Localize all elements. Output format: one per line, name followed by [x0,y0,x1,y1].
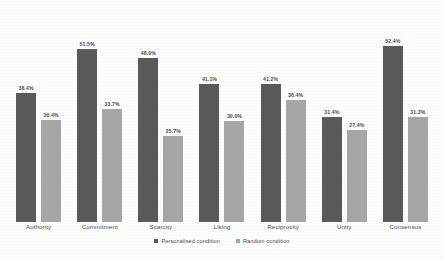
bar-scarcity-personalised [138,58,158,222]
bar-commitment-personalised [77,49,97,222]
bar-scarcity-random [163,136,183,222]
bar-slot-scarcity-personalised: 48.9% [138,10,158,222]
bar-reciprocity-personalised [261,84,281,222]
bar-authority-random [41,120,61,222]
bar-value-label: 25.7% [166,128,181,134]
bar-slot-scarcity-random: 25.7% [163,10,183,222]
bar-group-liking: 41.1% 30.0% [191,10,252,222]
legend-swatch-icon [154,239,158,243]
bar-group-unity: 31.4% 27.4% [314,10,375,222]
legend-label-personalised: Personalised condition [161,238,219,244]
bar-reciprocity-random [286,100,306,222]
legend-item-random: Random condition [236,238,290,244]
axis-label-liking: Liking [191,223,252,230]
legend-swatch-icon [236,239,240,243]
bar-value-label: 38.4% [18,85,33,91]
bar-value-label: 36.4% [288,92,303,98]
bar-consensus-random [408,117,428,222]
bar-slot-unity-personalised: 31.4% [322,10,342,222]
bar-value-label: 27.4% [349,122,364,128]
bar-group-scarcity: 48.9% 25.7% [130,10,191,222]
bar-slot-authority-random: 30.4% [41,10,61,222]
x-axis-tick-labels: Authority Commitment Scarcity Liking Rec… [8,223,436,230]
bar-value-label: 51.5% [80,41,95,47]
bar-value-label: 41.1% [202,76,217,82]
axis-label-consensus: Consensus [375,223,436,230]
bar-slot-unity-random: 27.4% [347,10,367,222]
bar-value-label: 31.4% [324,109,339,115]
axis-label-unity: Unity [314,223,375,230]
bar-chart: 38.4% 30.4% 51.5% 33.7% 48.9% [0,0,444,260]
bar-group-consensus: 52.4% 31.3% [375,10,436,222]
bar-commitment-random [102,109,122,222]
bar-value-label: 33.7% [105,101,120,107]
bar-value-label: 31.3% [410,109,425,115]
bar-value-label: 30.4% [43,112,58,118]
bar-slot-reciprocity-random: 36.4% [286,10,306,222]
bar-authority-personalised [16,93,36,222]
bar-liking-random [224,121,244,222]
bar-group-reciprocity: 41.2% 36.4% [253,10,314,222]
bar-slot-consensus-random: 31.3% [408,10,428,222]
bar-slot-commitment-random: 33.7% [102,10,122,222]
chart-legend: Personalised condition Random condition [0,238,444,244]
axis-label-commitment: Commitment [69,223,130,230]
bar-liking-personalised [199,84,219,222]
bar-value-label: 30.0% [227,113,242,119]
bar-consensus-personalised [383,46,403,222]
axis-label-reciprocity: Reciprocity [253,223,314,230]
axis-label-authority: Authority [8,223,69,230]
bar-value-label: 48.9% [141,50,156,56]
bar-value-label: 52.4% [385,38,400,44]
legend-item-personalised: Personalised condition [154,238,219,244]
plot-area: 38.4% 30.4% 51.5% 33.7% 48.9% [8,10,436,222]
legend-label-random: Random condition [243,238,290,244]
bar-value-label: 41.2% [263,76,278,82]
bar-group-commitment: 51.5% 33.7% [69,10,130,222]
bar-slot-commitment-personalised: 51.5% [77,10,97,222]
bar-slot-authority-personalised: 38.4% [16,10,36,222]
axis-label-scarcity: Scarcity [130,223,191,230]
bar-slot-reciprocity-personalised: 41.2% [261,10,281,222]
bar-slot-consensus-personalised: 52.4% [383,10,403,222]
bar-unity-random [347,130,367,222]
bar-slot-liking-personalised: 41.1% [199,10,219,222]
bar-unity-personalised [322,117,342,222]
bar-slot-liking-random: 30.0% [224,10,244,222]
bar-group-authority: 38.4% 30.4% [8,10,69,222]
